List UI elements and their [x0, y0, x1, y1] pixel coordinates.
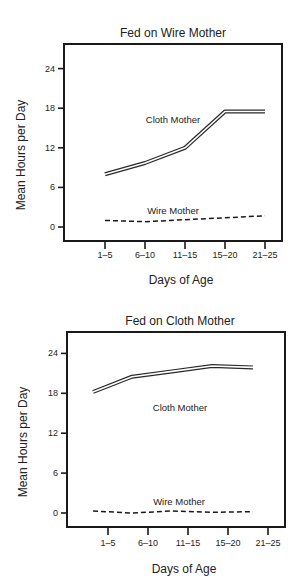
- chart-title: Fed on Wire Mother: [120, 26, 226, 40]
- x-tick-label: 6–10: [135, 250, 155, 260]
- x-tick-label: 6–10: [138, 538, 158, 548]
- y-tick-label: 0: [50, 222, 55, 232]
- chart-panel-2: Fed on Cloth Mother061218241–56–1011–151…: [16, 314, 285, 576]
- y-tick-label: 12: [48, 428, 58, 438]
- y-tick-label: 0: [53, 508, 58, 518]
- cloth-mother-label: Cloth Mother: [153, 402, 207, 413]
- x-tick-label: 15–20: [212, 250, 237, 260]
- y-tick-label: 24: [48, 348, 58, 358]
- x-tick-label: 11–15: [176, 538, 200, 548]
- y-tick-label: 18: [45, 103, 55, 113]
- y-axis-label: Mean Hours per Day: [16, 387, 30, 498]
- charts-canvas: Fed on Wire Mother061218241–56–1011–1515…: [0, 0, 302, 587]
- wire-mother-label: Wire Mother: [147, 205, 199, 216]
- wire-mother-label: Wire Mother: [153, 496, 205, 507]
- y-tick-label: 18: [48, 388, 58, 398]
- x-axis-label: Days of Age: [152, 562, 217, 576]
- x-tick-label: 1–5: [97, 250, 112, 260]
- chart-title: Fed on Cloth Mother: [125, 314, 234, 328]
- y-tick-label: 24: [45, 64, 55, 74]
- y-axis-label: Mean Hours per Day: [14, 100, 28, 211]
- x-tick-label: 15–20: [215, 538, 240, 548]
- y-tick-label: 12: [45, 143, 55, 153]
- x-tick-label: 11–15: [173, 250, 197, 260]
- y-tick-label: 6: [50, 182, 55, 192]
- x-tick-label: 1–5: [100, 538, 115, 548]
- x-axis-label: Days of Age: [149, 273, 214, 287]
- wire-mother-line: [105, 216, 265, 222]
- cloth-mother-label: Cloth Mother: [146, 114, 200, 125]
- x-tick-label: 21–25: [252, 250, 277, 260]
- x-tick-label: 21–25: [255, 538, 280, 548]
- wire-mother-line: [93, 511, 253, 513]
- cloth-mother-line: [93, 366, 253, 392]
- y-tick-label: 6: [53, 468, 58, 478]
- chart-panel-1: Fed on Wire Mother061218241–56–1011–1515…: [14, 26, 282, 287]
